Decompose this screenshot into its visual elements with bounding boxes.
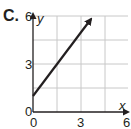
y-axis-label: y: [37, 12, 44, 25]
grid: [33, 16, 128, 112]
line-chart: [0, 0, 131, 129]
data-line: [33, 19, 91, 96]
x-tick-3: 3: [77, 116, 84, 129]
x-tick-6: 6: [123, 116, 130, 129]
x-axis-label: x: [119, 99, 126, 112]
y-tick-6: 6: [25, 10, 32, 23]
x-tick-0: 0: [30, 116, 37, 129]
y-tick-3: 3: [25, 58, 32, 71]
